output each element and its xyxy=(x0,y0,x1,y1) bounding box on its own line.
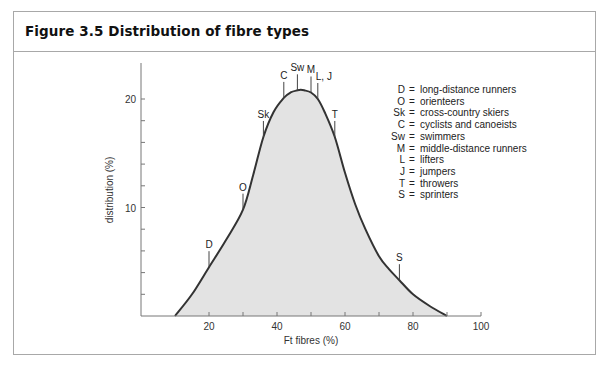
marker-label: S xyxy=(396,252,403,263)
y-axis-title: distribution (%) xyxy=(104,157,115,224)
legend-equals: = xyxy=(409,178,415,189)
x-tick-label: 40 xyxy=(271,321,283,332)
legend-equals: = xyxy=(409,96,415,107)
x-tick-label: 80 xyxy=(407,321,419,332)
marker-label: O xyxy=(239,182,247,193)
legend-equals: = xyxy=(409,131,415,142)
legend-label: long-distance runners xyxy=(420,84,516,95)
legend-label: lifters xyxy=(420,154,444,165)
legend-code: T xyxy=(399,178,405,189)
marker-label: C xyxy=(280,70,287,81)
legend-code: J xyxy=(400,166,405,177)
chart-plot: 204060801001020 DOSkCSwML, JTS Ft fibres… xyxy=(0,0,608,369)
distribution-area xyxy=(175,90,447,316)
marker-label: Sw xyxy=(290,62,305,73)
marker-label: T xyxy=(332,109,338,120)
x-tick-label: 60 xyxy=(339,321,351,332)
legend-code: Sw xyxy=(391,131,406,142)
y-tick-label: 20 xyxy=(125,94,137,105)
legend-equals: = xyxy=(409,143,415,154)
legend-code: M xyxy=(397,143,405,154)
legend-label: throwers xyxy=(420,178,458,189)
legend-code: Sk xyxy=(393,107,406,118)
legend-equals: = xyxy=(409,119,415,130)
legend-code: O xyxy=(397,96,405,107)
legend-equals: = xyxy=(409,84,415,95)
legend-label: middle-distance runners xyxy=(420,143,527,154)
legend-code: L xyxy=(399,154,405,165)
legend-equals: = xyxy=(409,107,415,118)
y-tick-label: 10 xyxy=(125,203,137,214)
x-tick-label: 20 xyxy=(203,321,215,332)
legend-equals: = xyxy=(409,189,415,200)
legend-equals: = xyxy=(409,154,415,165)
legend-code: C xyxy=(398,119,405,130)
legend-label: sprinters xyxy=(420,189,458,200)
legend-label: jumpers xyxy=(419,166,456,177)
chart-legend: D=long-distance runnersO=orienteersSk=cr… xyxy=(391,84,527,200)
area-fill xyxy=(175,90,447,316)
marker-label: Sk xyxy=(258,109,271,120)
legend-label: cyclists and canoeists xyxy=(420,119,517,130)
legend-code: S xyxy=(398,189,405,200)
x-axis-title: Ft fibres (%) xyxy=(284,335,338,346)
marker-label: D xyxy=(205,239,212,250)
legend-label: orienteers xyxy=(420,96,464,107)
x-tick-label: 100 xyxy=(473,321,490,332)
legend-label: cross-country skiers xyxy=(420,107,509,118)
legend-label: swimmers xyxy=(420,131,465,142)
marker-label: M xyxy=(307,64,315,75)
legend-code: D xyxy=(398,84,405,95)
legend-equals: = xyxy=(409,166,415,177)
marker-label: L, J xyxy=(316,71,332,82)
